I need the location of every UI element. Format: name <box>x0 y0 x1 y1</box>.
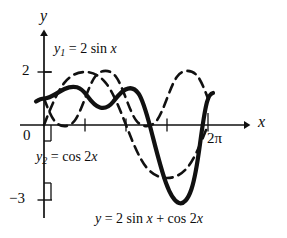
y-tick-label-minus-3: −3 <box>9 191 25 206</box>
y-tick-label-2: 2 <box>22 63 30 78</box>
figure-caption-var2: x <box>197 211 203 226</box>
x-axis-label: x <box>258 114 265 130</box>
annotation-curve-2sinx: y1 = 2 sin x <box>54 42 117 58</box>
annotation-curve-2sinx-eq: = 2 sin <box>65 41 110 56</box>
annotation-curve-2sinx-name: y1 <box>54 41 65 56</box>
annotation-curve-cos2x-eq: = cos 2 <box>47 149 91 164</box>
annotation-curve-2sinx-var: x <box>111 41 117 56</box>
function-plot-figure: y x 2 0 −3 2π y1 = 2 sin x y2 = cos 2x y… <box>0 0 287 238</box>
figure-caption-tail: + cos 2 <box>153 211 197 226</box>
origin-label: 0 <box>23 128 31 143</box>
x-tick-label-two-pi: 2π <box>207 131 222 146</box>
annotation-curve-cos2x-var: x <box>91 149 97 164</box>
figure-caption-eq: = 2 sin <box>101 211 146 226</box>
plot-canvas <box>0 0 287 238</box>
y-axis-label: y <box>40 8 47 24</box>
annotation-curve-cos2x: y2 = cos 2x <box>36 150 98 166</box>
curve-sum <box>36 87 213 203</box>
figure-caption: y = 2 sin x + cos 2x <box>95 212 203 226</box>
annotation-curve-cos2x-name: y2 <box>36 149 47 164</box>
